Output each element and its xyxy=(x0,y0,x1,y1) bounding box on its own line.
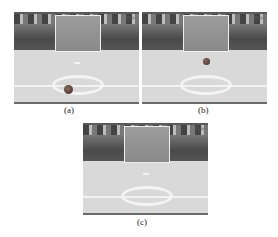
frame-c: 15 fps xyxy=(83,123,208,215)
goal-net xyxy=(183,15,229,52)
caption-a: (a) xyxy=(64,105,74,115)
frame-a: 15 fps xyxy=(14,12,139,104)
ball xyxy=(64,85,73,94)
overlay-text: 15 fps xyxy=(195,126,206,131)
bottom-edge xyxy=(14,102,139,104)
frame-b: 15 fps xyxy=(142,12,267,104)
center-circle xyxy=(52,75,104,95)
ball xyxy=(203,58,210,65)
goal-net xyxy=(124,126,170,163)
center-circle xyxy=(121,186,173,206)
caption-c: (c) xyxy=(137,217,147,227)
penalty-mark xyxy=(143,173,149,175)
overlay-text: 15 fps xyxy=(254,15,265,20)
bottom-edge xyxy=(83,213,208,215)
overlay-text: 15 fps xyxy=(126,15,137,20)
caption-b: (b) xyxy=(198,105,209,115)
center-circle xyxy=(180,75,232,95)
bottom-edge xyxy=(142,102,267,104)
goal-net xyxy=(55,15,101,52)
penalty-mark xyxy=(74,62,80,64)
